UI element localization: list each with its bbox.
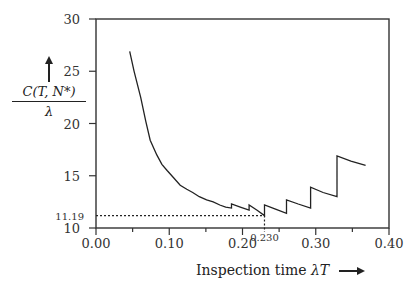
chart-canvas: 10152025300.000.100.200.300.40 11.190.23… [0,0,413,290]
x-tick-label: 0.30 [301,236,330,251]
series-line [130,51,366,215]
x-label-text: Inspection time [196,262,311,278]
y-tick-label: 30 [63,12,80,27]
y-label-numerator: C(T, N*) [12,84,86,102]
plot-frame [96,19,389,228]
optimal-time-label: 0.230 [250,232,279,243]
x-tick-label: 0.00 [82,236,111,251]
x-tick-label: 0.10 [155,236,184,251]
y-label-denominator: λ [12,102,86,119]
y-tick-label: 10 [63,221,80,236]
min-cost-label: 11.19 [55,211,84,222]
x-axis-label: Inspection time λT [196,262,365,278]
up-arrow-icon [12,54,86,84]
y-axis-label: C(T, N*) λ [12,54,86,119]
y-tick-label: 15 [63,169,80,184]
cost-curve [130,51,366,215]
right-arrow-icon [339,266,365,276]
x-tick-label: 0.40 [375,236,404,251]
x-label-symbol: λT [311,262,329,278]
